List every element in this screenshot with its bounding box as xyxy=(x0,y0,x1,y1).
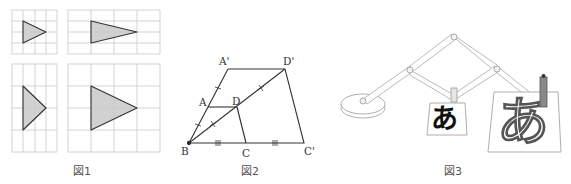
label-C: C xyxy=(242,147,250,159)
triangle-bottom-left xyxy=(23,86,46,130)
caption-figure-3: 図3 xyxy=(444,162,462,178)
caption-figure-2: 図2 xyxy=(241,162,259,178)
label-A: A xyxy=(199,96,207,108)
label-D: D xyxy=(232,95,240,107)
figure-1-triangles xyxy=(23,21,137,130)
label-D-prime: D' xyxy=(283,55,294,67)
label-C-prime: C' xyxy=(304,145,315,157)
large-character-outline: あ xyxy=(497,93,549,151)
caption-figure-1: 図1 xyxy=(73,162,91,178)
label-A-prime: A' xyxy=(219,55,229,67)
small-character: あ xyxy=(431,104,458,134)
triangle-top-left xyxy=(23,21,46,43)
small-stylus xyxy=(451,88,457,102)
figure-canvas xyxy=(0,0,571,184)
label-B: B xyxy=(181,145,189,157)
segment-DC xyxy=(237,107,246,143)
